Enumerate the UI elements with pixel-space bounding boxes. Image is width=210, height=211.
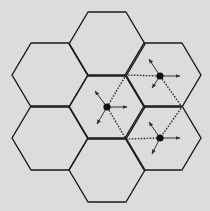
node-center [95,91,127,124]
hex-cell-upper-left [12,43,88,107]
hexagon-cell-diagram [0,0,210,211]
node-dot-icon [103,103,110,110]
hex-cell-bottom [69,138,145,202]
node-dot-icon [156,72,163,79]
hex-cell-lower-left [12,106,88,170]
hex-cell-top [69,12,145,76]
node-upper-right [149,59,180,88]
node-dot-icon [156,134,163,141]
